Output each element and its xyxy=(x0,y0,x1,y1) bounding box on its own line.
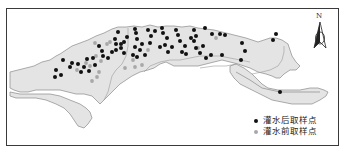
sample-point xyxy=(210,32,214,36)
legend: 灌水后取样点 灌水前取样点 xyxy=(254,115,317,137)
sample-point xyxy=(274,32,278,36)
sample-point xyxy=(114,48,118,52)
sample-point xyxy=(178,39,182,43)
sample-point xyxy=(160,26,164,30)
sample-point xyxy=(88,64,92,68)
north-label: N xyxy=(316,12,322,20)
sample-point xyxy=(133,45,137,49)
sample-point xyxy=(146,48,150,52)
sample-point xyxy=(223,33,227,37)
north-arrow: N xyxy=(310,12,330,52)
sample-point xyxy=(239,58,243,62)
sample-point xyxy=(110,50,114,54)
sample-point xyxy=(161,31,165,35)
sample-point xyxy=(76,62,80,66)
sample-point xyxy=(123,66,127,70)
sample-point xyxy=(138,48,142,52)
sample-point xyxy=(133,27,137,31)
sample-point xyxy=(75,68,79,72)
sample-point xyxy=(116,30,120,34)
sample-point xyxy=(108,40,112,44)
sample-point xyxy=(61,58,65,62)
sample-point xyxy=(163,43,167,47)
sample-point xyxy=(131,58,135,62)
legend-label: 灌水前取样点 xyxy=(263,126,317,137)
north-arrow-icon xyxy=(310,20,330,60)
black-dot-icon xyxy=(254,119,258,123)
sample-point xyxy=(54,68,58,72)
sample-point xyxy=(278,90,282,94)
sample-point xyxy=(198,51,202,55)
sample-point xyxy=(194,46,198,50)
sample-point xyxy=(93,63,97,67)
sample-point xyxy=(140,42,144,46)
sample-point xyxy=(99,59,103,63)
sample-point xyxy=(201,44,205,48)
sample-point xyxy=(114,42,118,46)
sample-point xyxy=(90,79,94,83)
sample-point xyxy=(119,46,123,50)
sample-point xyxy=(271,38,275,42)
sample-point xyxy=(203,26,207,30)
sample-point xyxy=(194,34,198,38)
sample-point xyxy=(180,50,184,54)
sample-point xyxy=(59,73,63,77)
sample-point xyxy=(146,28,150,32)
sample-point xyxy=(122,51,126,55)
sample-point xyxy=(165,36,169,40)
sample-point xyxy=(189,36,193,40)
sample-point xyxy=(153,29,157,33)
sample-point xyxy=(166,50,170,54)
legend-item-after: 灌水后取样点 xyxy=(254,115,317,126)
sample-point xyxy=(243,49,247,53)
sample-point xyxy=(192,28,196,32)
legend-item-before: 灌水前取样点 xyxy=(254,126,317,137)
sample-point xyxy=(135,55,139,59)
sample-point xyxy=(101,54,105,58)
sample-point xyxy=(53,75,57,79)
sample-point xyxy=(113,37,117,41)
sample-point xyxy=(220,53,224,57)
sample-point xyxy=(183,44,187,48)
sample-point xyxy=(82,65,86,69)
sample-point xyxy=(97,44,101,48)
sample-point xyxy=(91,56,95,60)
sample-point xyxy=(176,33,180,37)
sample-point xyxy=(192,39,196,43)
sample-point xyxy=(214,36,218,40)
sample-point xyxy=(84,61,88,65)
sample-point xyxy=(184,52,188,56)
sample-point xyxy=(95,75,99,79)
sample-point xyxy=(87,69,91,73)
sample-point xyxy=(100,49,104,53)
sample-point xyxy=(68,65,72,69)
sample-point xyxy=(133,65,137,69)
sample-point xyxy=(97,70,101,74)
sample-point xyxy=(158,45,162,49)
sample-point xyxy=(170,45,174,49)
sample-point xyxy=(149,34,153,38)
sample-point xyxy=(125,35,129,39)
sample-point xyxy=(218,32,222,36)
sample-point xyxy=(70,61,74,65)
sample-point xyxy=(134,31,138,35)
region-southwest xyxy=(10,92,92,128)
gray-dot-icon xyxy=(254,130,258,134)
sample-point xyxy=(85,57,89,61)
sample-point xyxy=(119,42,123,46)
legend-label: 灌水后取样点 xyxy=(263,115,317,126)
sample-point xyxy=(79,70,83,74)
sample-point xyxy=(131,53,135,57)
sample-point xyxy=(240,41,244,45)
sample-point xyxy=(204,56,208,60)
sample-point xyxy=(140,63,144,67)
sample-point xyxy=(148,41,152,45)
sample-point xyxy=(209,53,213,57)
sample-point xyxy=(106,56,110,60)
sample-point xyxy=(93,41,97,45)
sample-point xyxy=(143,53,147,57)
sample-point xyxy=(174,28,178,32)
sample-point xyxy=(135,37,139,41)
